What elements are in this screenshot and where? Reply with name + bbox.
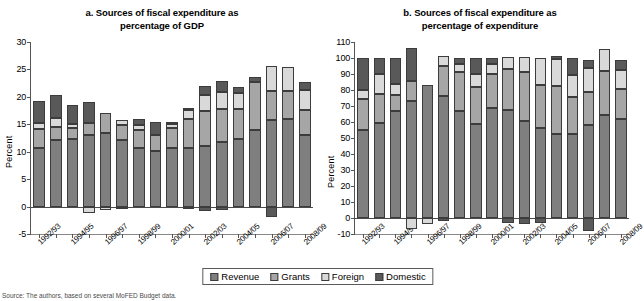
legend-item-foreign: Foreign <box>321 271 364 282</box>
bar-segment-grants <box>83 123 95 135</box>
x-tick <box>379 234 380 238</box>
y-tick <box>351 42 355 43</box>
bar-segment-domestic <box>567 58 578 75</box>
y-tick-label: -5 <box>18 229 26 239</box>
bar-segment-grants <box>233 109 245 138</box>
bar-segment-domestic <box>249 77 261 82</box>
y-tick-label: 10 <box>16 147 26 157</box>
bar-segment-foreign <box>183 110 195 119</box>
bar-segment-revenue <box>374 123 385 218</box>
bar-segment-foreign <box>551 59 562 85</box>
bar-segment-revenue <box>422 85 433 218</box>
bar-segment-foreign <box>599 49 610 70</box>
y-tick-label: 25 <box>16 64 26 74</box>
bar-segment-domestic <box>133 119 145 126</box>
chart-b-title-line2: percentage of expenditure <box>342 19 618 32</box>
bar-segment-negative-domestic <box>502 218 513 223</box>
y-tick-label: 0 <box>345 213 350 223</box>
bar-segment-revenue <box>567 134 578 218</box>
y-tick <box>27 179 31 180</box>
bar-segment-domestic <box>374 58 385 74</box>
bar-segment-foreign <box>166 124 178 127</box>
bar-stack <box>390 42 401 234</box>
bar-segment-grants <box>282 91 294 120</box>
bar-segment-grants <box>150 135 162 151</box>
bar-segment-foreign <box>583 68 594 92</box>
bar-segment-revenue <box>615 119 626 218</box>
bar-segment-domestic <box>486 58 497 64</box>
bar-segment-grants <box>390 95 401 111</box>
chart-a-y-axis-label: Percent <box>4 136 14 168</box>
bar-segment-grants <box>33 129 45 149</box>
x-tick <box>540 234 541 238</box>
y-tick <box>351 58 355 59</box>
x-tick <box>155 234 156 238</box>
bar-segment-domestic <box>390 58 401 84</box>
y-tick-label: 70 <box>340 101 350 111</box>
bar-segment-revenue <box>249 130 261 207</box>
chart-panel-a: a. Sources of fiscal expenditure as perc… <box>0 0 318 270</box>
y-tick <box>351 234 355 235</box>
y-tick-label: 30 <box>16 37 26 47</box>
bar-segment-grants <box>535 85 546 128</box>
x-tick <box>508 234 509 238</box>
chart-b-title: b. Sources of fiscal expenditure as perc… <box>342 6 618 32</box>
bar-segment-foreign <box>233 93 245 109</box>
bar-segment-domestic <box>67 105 79 124</box>
bar-segment-grants <box>249 82 261 130</box>
bar-stack <box>374 42 385 234</box>
bar-segment-grants <box>266 91 278 120</box>
chart-a-title-line1: a. Sources of fiscal expenditure as <box>24 6 300 19</box>
bar-segment-grants <box>116 125 128 140</box>
y-tick <box>351 138 355 139</box>
y-tick <box>27 69 31 70</box>
bar-stack <box>567 42 578 234</box>
chart-b-plot-area: Percent -1001020304050607080901001101992… <box>318 38 636 234</box>
bar-segment-revenue <box>183 148 195 206</box>
chart-a-plot: -50510152025301992/931994/951996/971998/… <box>30 42 313 235</box>
bar-segment-negative-domestic <box>183 207 195 210</box>
bar-segment-negative-foreign <box>83 207 95 214</box>
x-tick <box>56 234 57 238</box>
bar-segment-grants <box>166 128 178 149</box>
y-tick-label: 20 <box>16 92 26 102</box>
bar-segment-domestic <box>470 58 481 74</box>
legend-label: Domestic <box>386 271 426 282</box>
bar-stack <box>299 42 311 234</box>
bar-segment-revenue <box>583 125 594 218</box>
bar-stack <box>150 42 162 234</box>
bar-segment-grants <box>519 72 530 120</box>
bar-segment-revenue <box>266 120 278 207</box>
bar-segment-negative-foreign <box>100 207 112 210</box>
bar-segment-domestic <box>150 122 162 135</box>
chart-panel-b: b. Sources of fiscal expenditure as perc… <box>318 0 636 270</box>
bar-segment-revenue <box>199 146 211 206</box>
legend-item-grants: Grants <box>270 271 310 282</box>
x-tick <box>411 234 412 238</box>
bar-segment-domestic <box>299 82 311 90</box>
x-tick <box>476 234 477 238</box>
y-tick <box>351 154 355 155</box>
bar-segment-revenue <box>299 135 311 206</box>
bar-segment-revenue <box>599 115 610 218</box>
bar-segment-negative-domestic <box>583 218 594 231</box>
bar-stack <box>100 42 112 234</box>
legend-label: Grants <box>281 271 310 282</box>
bar-stack <box>519 42 530 234</box>
x-tick <box>222 234 223 238</box>
bar-segment-foreign <box>486 64 497 74</box>
bar-segment-revenue <box>438 96 449 218</box>
bar-segment-grants <box>470 87 481 125</box>
bar-segment-foreign <box>438 56 449 66</box>
bar-segment-domestic <box>83 102 95 123</box>
bar-stack <box>83 42 95 234</box>
bar-stack <box>266 42 278 234</box>
bar-segment-negative-domestic <box>216 207 228 210</box>
source-note: Source: The authors, based on several Mo… <box>2 292 176 301</box>
bar-segment-domestic <box>33 101 45 122</box>
bar-segment-domestic <box>583 60 594 69</box>
chart-legend: RevenueGrantsForeignDomestic <box>202 268 433 285</box>
bar-stack <box>282 42 294 234</box>
legend-item-revenue: Revenue <box>210 271 259 282</box>
